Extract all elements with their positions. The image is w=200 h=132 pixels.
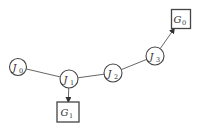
node-j1: J1 [60,70,78,88]
node-label: J [61,74,68,85]
node-label: J [105,68,112,79]
node-j2: J2 [104,64,122,82]
node-g0: G0 [172,10,191,29]
kinematic-chain-diagram: J0J1J2J3G0G1 [0,0,200,132]
edge-j3-g0-arrow [160,29,174,49]
node-j3: J3 [146,47,164,65]
node-label: J [147,51,154,62]
node-j0: J0 [10,59,27,76]
node-g1: G1 [57,102,79,122]
node-label: J [10,62,17,73]
edge-j2-j3 [121,59,146,69]
node-label: G [174,14,182,25]
node-label-subscript: 1 [70,79,74,87]
node-label: G [61,107,69,118]
node-label-subscript: 3 [156,56,160,64]
edge-j1-j2 [78,74,104,78]
edge-j0-j1 [26,69,60,77]
node-label-subscript: 0 [19,67,23,75]
node-label-subscript: 2 [114,73,118,81]
node-label-subscript: 0 [182,19,186,27]
node-label-subscript: 1 [69,112,73,120]
